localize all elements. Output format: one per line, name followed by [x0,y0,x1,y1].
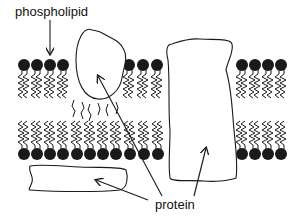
protein-transmembrane [167,39,237,182]
membrane-diagram [0,0,302,221]
top-leaflet [18,59,287,98]
protein-blob-top [76,29,126,99]
bottom-leaflet [18,121,287,160]
protein-peripheral [29,165,127,191]
